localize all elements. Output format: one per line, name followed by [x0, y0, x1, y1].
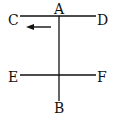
label-d: D	[97, 12, 108, 28]
label-b: B	[54, 100, 64, 116]
left-arrow-icon	[26, 24, 51, 30]
label-a: A	[53, 1, 65, 17]
diagram-canvas: A C D E F B	[0, 0, 113, 117]
label-f: F	[97, 69, 107, 85]
label-e: E	[8, 69, 18, 85]
label-c: C	[8, 12, 19, 28]
